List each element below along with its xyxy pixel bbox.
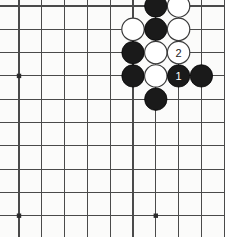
- star-point: [154, 214, 158, 218]
- stone-white[interactable]: [167, 18, 189, 40]
- white-stone-body: [167, 18, 189, 40]
- star-point: [17, 74, 21, 78]
- stone-black[interactable]: [145, 18, 167, 40]
- star-point: [17, 214, 21, 218]
- stone-black[interactable]: [122, 41, 144, 63]
- go-board-diagram: 21: [0, 0, 225, 237]
- stone-black[interactable]: [145, 88, 167, 110]
- stone-black[interactable]: [145, 0, 167, 17]
- stone-black[interactable]: [122, 65, 144, 87]
- white-stone-body: [122, 18, 144, 40]
- white-stone-body: [167, 0, 189, 17]
- stone-black[interactable]: [190, 65, 212, 87]
- black-stone-body: [122, 41, 144, 63]
- black-stone-body: [145, 0, 167, 17]
- black-stone-body: [190, 65, 212, 87]
- black-stone-body: [122, 65, 144, 87]
- black-stone-body: [145, 88, 167, 110]
- stone-white[interactable]: [145, 65, 167, 87]
- move-number-label: 1: [176, 70, 182, 82]
- grid-lines: [0, 0, 225, 237]
- stones-layer[interactable]: 21: [122, 0, 213, 110]
- white-stone-body: [145, 65, 167, 87]
- move-number-label: 2: [176, 47, 182, 59]
- stone-white-move-2[interactable]: 2: [167, 41, 189, 63]
- stone-white[interactable]: [145, 41, 167, 63]
- white-stone-body: [145, 41, 167, 63]
- stone-black-move-1[interactable]: 1: [167, 65, 189, 87]
- black-stone-body: [145, 18, 167, 40]
- stone-white[interactable]: [122, 18, 144, 40]
- go-board-canvas[interactable]: 21: [0, 0, 225, 237]
- stone-white[interactable]: [167, 0, 189, 17]
